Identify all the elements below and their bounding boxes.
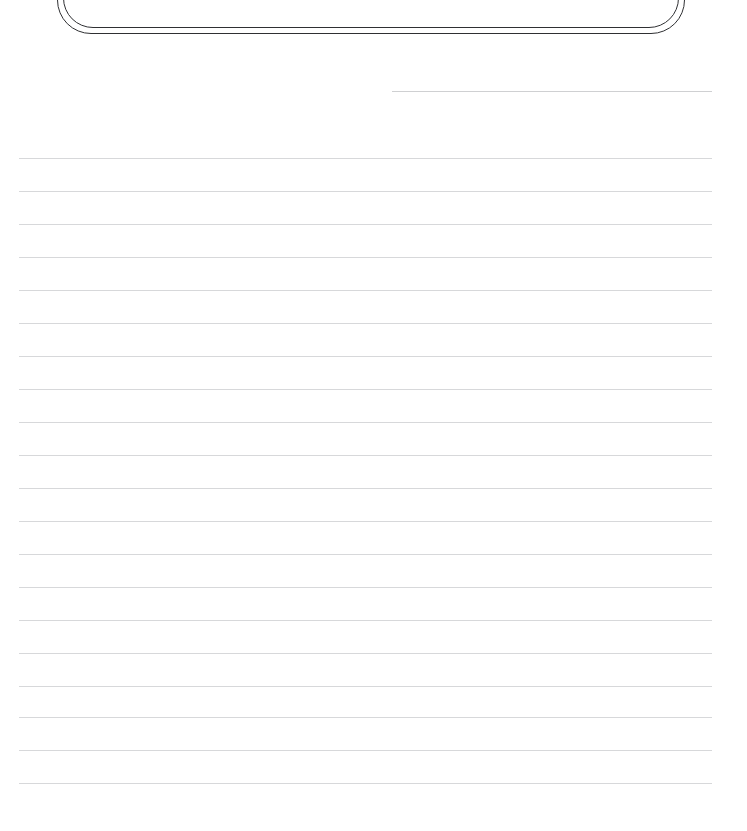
ruled-line bbox=[19, 554, 712, 555]
ruled-line bbox=[19, 521, 712, 522]
ruled-line bbox=[19, 356, 712, 357]
ruled-line bbox=[19, 224, 712, 225]
ruled-line bbox=[19, 587, 712, 588]
ruled-line bbox=[19, 191, 712, 192]
ruled-line bbox=[19, 257, 712, 258]
ruled-line bbox=[19, 488, 712, 489]
ruled-line bbox=[19, 783, 712, 784]
ruled-line bbox=[19, 717, 712, 718]
ruled-line bbox=[19, 422, 712, 423]
ruled-line bbox=[19, 653, 712, 654]
ruled-line bbox=[19, 620, 712, 621]
ruled-line bbox=[19, 455, 712, 456]
worksheet-page: Happy Writing bbox=[0, 0, 747, 831]
ruled-line bbox=[19, 158, 712, 159]
ruled-line bbox=[19, 323, 712, 324]
ruled-line bbox=[19, 686, 712, 687]
ruled-line bbox=[19, 290, 712, 291]
ruled-line bbox=[19, 389, 712, 390]
ruled-lines-area bbox=[19, 0, 712, 831]
ruled-line bbox=[19, 750, 712, 751]
